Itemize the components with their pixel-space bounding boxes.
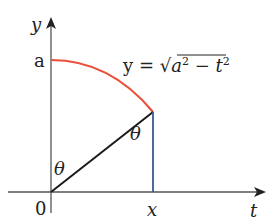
- svg-text:y = √a2 − t2: y = √a2 − t2: [122, 55, 230, 76]
- curve-equation: y = √a2 − t2: [122, 55, 230, 76]
- diagram-canvas: y a 0 x t θ θ y = √a2 − t2: [0, 0, 276, 223]
- equation-lhs: y =: [122, 55, 160, 76]
- angle-top-label: θ: [130, 123, 141, 144]
- radical-sign-icon: √: [160, 55, 172, 76]
- x-tick-label: x: [147, 199, 157, 220]
- angle-bottom-label: θ: [54, 158, 65, 179]
- equation-minus: −: [189, 55, 216, 76]
- t-axis-label: t: [250, 200, 258, 221]
- a-tick-label: a: [34, 50, 45, 71]
- equation-a-exponent: 2: [182, 55, 189, 68]
- equation-t-exponent: 2: [223, 55, 230, 68]
- y-axis-label: y: [30, 14, 42, 35]
- origin-label: 0: [35, 198, 46, 219]
- equation-a: a: [171, 55, 182, 76]
